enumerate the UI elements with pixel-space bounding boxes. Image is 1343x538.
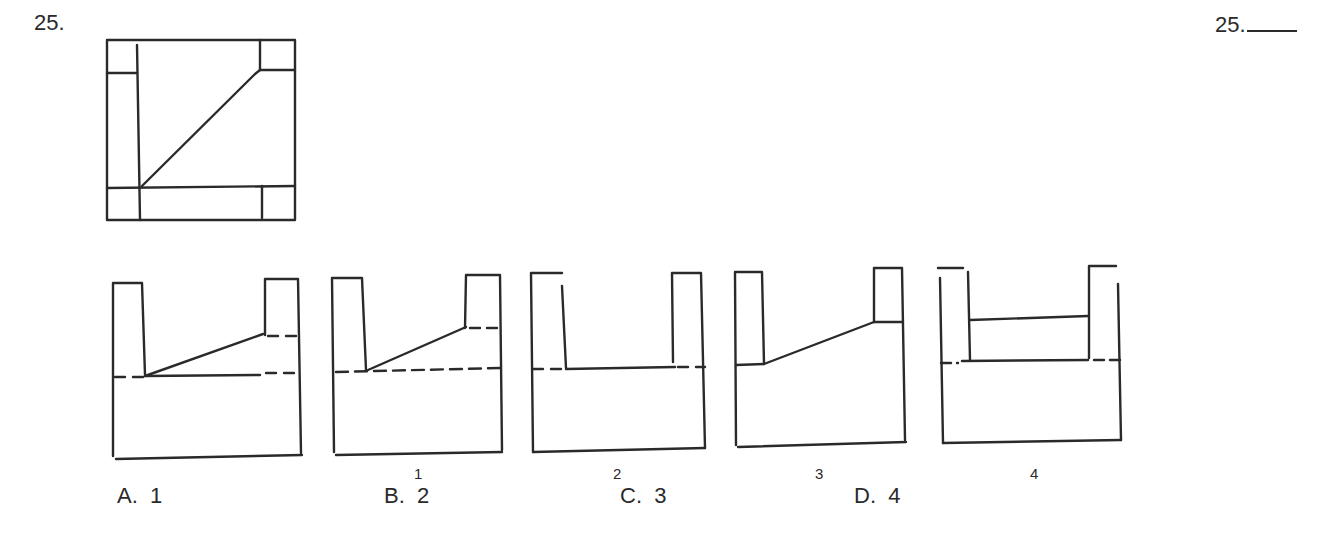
choice-b[interactable]: B. 2 xyxy=(384,483,429,509)
choice-letter: D. xyxy=(854,483,876,508)
choice-value: 1 xyxy=(150,483,162,508)
choice-value: 2 xyxy=(417,483,429,508)
choice-letter: B. xyxy=(384,483,405,508)
option-view-3 xyxy=(735,268,906,447)
choice-a[interactable]: A. 1 xyxy=(117,483,162,509)
view-caption-4: 4 xyxy=(1030,465,1038,482)
option-view-4 xyxy=(938,266,1121,443)
choice-d[interactable]: D. 4 xyxy=(854,483,900,509)
choice-value: 4 xyxy=(888,483,900,508)
drawing-canvas xyxy=(0,0,1343,538)
option-view-2 xyxy=(531,273,705,452)
view-caption-1: 1 xyxy=(414,465,422,482)
choice-c[interactable]: C. 3 xyxy=(620,483,666,509)
top-view xyxy=(107,40,295,220)
choice-letter: A. xyxy=(117,483,138,508)
choice-value: 3 xyxy=(654,483,666,508)
option-view-1 xyxy=(332,275,502,455)
view-caption-3: 3 xyxy=(815,465,823,482)
choice-letter: C. xyxy=(620,483,642,508)
view-caption-2: 2 xyxy=(613,465,621,482)
given-view xyxy=(113,279,302,459)
